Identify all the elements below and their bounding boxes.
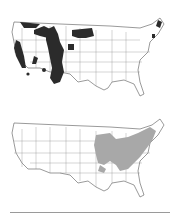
us-outline bbox=[12, 119, 164, 197]
divider-rule bbox=[10, 212, 170, 213]
map-bottom bbox=[0, 113, 174, 217]
map-top bbox=[0, 8, 174, 112]
